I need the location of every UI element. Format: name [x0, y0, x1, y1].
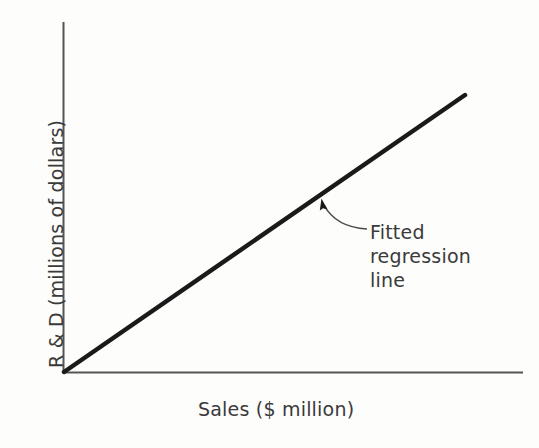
regression-scatter-figure: R & D (millions of dollars) Sales ($ mil…	[0, 0, 539, 448]
annotation-arrowhead-icon	[320, 199, 328, 211]
annotation-line-1: Fitted	[370, 220, 471, 244]
x-axis-label: Sales ($ million)	[198, 398, 354, 420]
y-axis-label: R & D (millions of dollars)	[45, 120, 67, 368]
annotation-line-2: regression	[370, 244, 471, 268]
annotation-line-3: line	[370, 268, 471, 292]
annotation-leader-curve	[324, 205, 367, 229]
annotation-fitted-regression-line: Fitted regression line	[370, 220, 471, 292]
